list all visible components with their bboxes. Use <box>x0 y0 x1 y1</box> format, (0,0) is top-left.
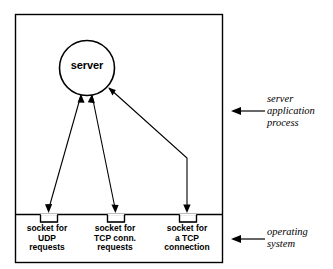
annotation-line: application <box>267 105 315 117</box>
socket-caption-udp: socket for UDP requests <box>12 224 82 253</box>
server-node-label: server <box>60 59 114 71</box>
callout-arrow-operating-system <box>231 235 265 243</box>
callout-arrow-server-application-process <box>231 107 265 115</box>
socket-caption-line: requests <box>12 243 82 253</box>
socket-caption-line: requests <box>80 243 150 253</box>
annotation-line: server <box>267 93 315 105</box>
socket-caption-line: connection <box>152 243 222 253</box>
annotation-line: process <box>267 117 315 129</box>
annotation-line: system <box>267 238 308 250</box>
diagram-canvas: server socket for UDP requests socket fo… <box>0 0 333 269</box>
annotation-operating-system: operating system <box>267 226 308 250</box>
socket-notch-udp <box>41 215 58 223</box>
annotation-line: operating <box>267 226 308 238</box>
socket-caption-tcp-conn: socket for TCP conn. requests <box>80 224 150 253</box>
socket-caption-tcp-connection: socket for a TCP connection <box>152 224 222 253</box>
socket-notch-tcp-conn <box>108 215 125 223</box>
socket-notch-tcp-connection <box>180 215 197 223</box>
annotation-server-application-process: server application process <box>267 93 315 129</box>
